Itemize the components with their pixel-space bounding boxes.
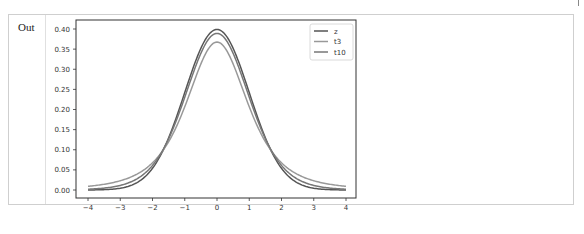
y-tick-label: 0.10	[54, 146, 70, 154]
legend: zt3t10	[310, 24, 353, 60]
y-tick-label: 0.00	[54, 187, 70, 195]
legend-label-z: z	[334, 28, 338, 36]
x-tick-label: −3	[115, 204, 125, 212]
x-tick-label: 2	[279, 204, 283, 212]
y-tick-label: 0.30	[54, 66, 70, 74]
y-axis: 0.000.050.100.150.200.250.300.350.40	[54, 26, 76, 195]
y-tick-label: 0.15	[54, 126, 70, 134]
series-line-z	[88, 29, 346, 190]
x-tick-label: −1	[180, 204, 190, 212]
y-tick-label: 0.25	[54, 86, 70, 94]
x-tick-label: 3	[312, 204, 316, 212]
legend-label-t3: t3	[334, 38, 341, 46]
y-tick-label: 0.05	[54, 166, 70, 174]
x-tick-label: 4	[344, 204, 349, 212]
y-tick-label: 0.40	[54, 26, 70, 34]
series-line-t3	[88, 42, 346, 186]
series-lines	[88, 29, 346, 190]
series-line-t10	[88, 33, 346, 189]
y-tick-label: 0.20	[54, 106, 70, 114]
x-tick-label: −4	[83, 204, 94, 212]
legend-label-t10: t10	[334, 49, 346, 57]
y-tick-label: 0.35	[54, 46, 70, 54]
x-axis: −4−3−2−101234	[83, 198, 349, 212]
x-tick-label: 0	[215, 204, 219, 212]
x-tick-label: 1	[247, 204, 251, 212]
line-chart: 0.000.050.100.150.200.250.300.350.40 −4−…	[0, 0, 584, 234]
x-tick-label: −2	[147, 204, 157, 212]
